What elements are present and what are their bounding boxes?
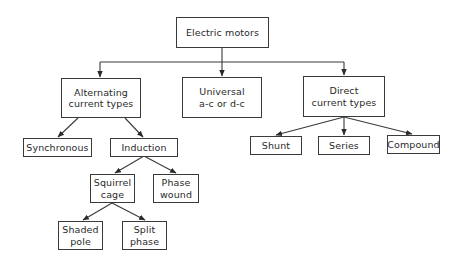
node-series: Series [318,136,370,155]
node-label: Series [329,140,359,152]
node-label-line-1: Split [134,224,156,236]
edge-squirrel-shaded [83,203,112,220]
node-label-line-1: Squirrel [94,177,131,189]
node-label-line-1: Alternating [74,87,128,99]
node-label-line-2: current types [69,98,134,110]
edge-direct-shunt [276,117,344,135]
node-shunt: Shunt [250,136,302,155]
edge-alternating-induction [125,118,143,137]
node-label-line-2: pole [70,236,91,248]
edge-alternating-synchronous [58,118,78,137]
node-label-line-1: Universal [199,86,244,98]
node-universal: Universal a-c or d-c [182,77,262,118]
node-squirrel-cage: Squirrel cage [90,174,135,203]
node-direct-current-types: Direct current types [303,76,385,117]
node-split-phase: Split phase [122,221,167,250]
node-label-line-1: Direct [329,85,358,97]
node-label: Compound [387,139,439,151]
node-label-line-2: phase [130,236,159,248]
node-shaded-pole: Shaded pole [58,221,103,250]
node-phase-wound: Phase wound [153,174,199,203]
edge-squirrel-split [112,203,145,220]
node-label: Synchronous [26,142,88,154]
node-label-line-1: Shaded [62,224,98,236]
node-compound: Compound [387,135,440,154]
node-induction: Induction [110,138,178,157]
node-label: Induction [121,142,166,154]
edge-direct-compound [344,117,412,134]
node-label-line-1: Phase [162,177,191,189]
node-label-line-2: a-c or d-c [199,98,245,110]
node-label: Electric motors [186,27,259,39]
node-synchronous: Synchronous [23,138,92,157]
node-label: Shunt [262,140,290,152]
node-label-line-2: cage [101,189,124,201]
node-label-line-2: wound [160,189,192,201]
edge-induction-phase [144,156,176,173]
node-alternating-current-types: Alternating current types [61,78,141,118]
edge-induction-squirrel [115,156,144,173]
node-electric-motors: Electric motors [176,17,269,48]
node-label-line-2: current types [312,97,377,109]
